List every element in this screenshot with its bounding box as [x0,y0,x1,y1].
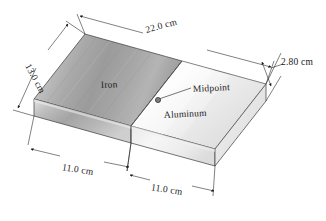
material-label-iron: Iron [101,80,118,90]
dimension-label-thickness: 2.80 cm [281,58,313,68]
midpoint-dot [155,97,160,102]
physics-figure-slab: 22.0 cm 13.0 cm 2.80 cm 11.0 cm 11.0 cm … [0,0,326,221]
midpoint-label: Midpoint [193,83,230,94]
